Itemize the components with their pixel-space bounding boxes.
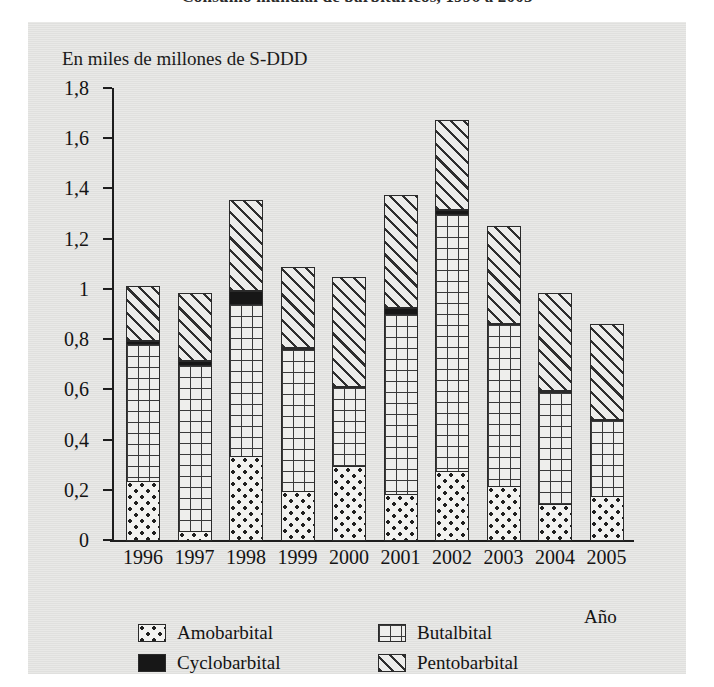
bar-segment-amobarbital bbox=[126, 481, 160, 541]
bar-segment-butalbital bbox=[590, 420, 624, 498]
y-axis-tick-label: 0,2 bbox=[64, 478, 89, 501]
y-axis-tick: 1,6 bbox=[103, 137, 112, 139]
bar-segment-butalbital bbox=[384, 314, 418, 495]
legend-item-butalbital: Butalbital bbox=[378, 622, 608, 644]
bar-segment-butalbital bbox=[126, 344, 160, 482]
legend-swatch-butalbital bbox=[378, 624, 406, 642]
bar-segment-pentobarbital bbox=[435, 120, 469, 210]
legend-label-pentobarbital: Pentobarbital bbox=[417, 652, 518, 674]
legend-label-amobarbital: Amobarbital bbox=[177, 622, 273, 644]
y-axis-tick-label: 0 bbox=[79, 529, 89, 552]
figure-page: Consumo mundial de barbitúricos, 1996 a … bbox=[0, 0, 714, 687]
bar-1996 bbox=[126, 286, 160, 540]
bar-segment-pentobarbital bbox=[229, 200, 263, 290]
bar-segment-amobarbital bbox=[538, 504, 572, 542]
bar-1997 bbox=[178, 293, 212, 540]
y-axis-tick: 0 bbox=[103, 539, 112, 541]
bar-segment-pentobarbital bbox=[126, 286, 160, 341]
y-axis-tick: 0,2 bbox=[103, 489, 112, 491]
y-axis-tick: 1,2 bbox=[103, 238, 112, 240]
bar-segment-amobarbital bbox=[281, 491, 315, 541]
y-axis-tick: 0,8 bbox=[103, 338, 112, 340]
legend-label-cyclobarbital: Cyclobarbital bbox=[177, 652, 280, 674]
legend-item-cyclobarbital: Cyclobarbital bbox=[138, 652, 368, 674]
bar-segment-butalbital bbox=[281, 349, 315, 492]
legend-swatch-amobarbital bbox=[138, 624, 166, 642]
y-axis-tick: 1,4 bbox=[103, 187, 112, 189]
x-axis-tick-label: 2005 bbox=[577, 546, 637, 569]
chart-title: Consumo mundial de barbitúricos, 1996 a … bbox=[0, 0, 714, 7]
bar-segment-amobarbital bbox=[332, 466, 366, 541]
y-axis-tick-label: 1,6 bbox=[64, 127, 89, 150]
bar-segment-pentobarbital bbox=[590, 324, 624, 419]
bar-segment-amobarbital bbox=[435, 471, 469, 541]
bar-2005 bbox=[590, 324, 624, 540]
bar-segment-amobarbital bbox=[487, 486, 521, 541]
y-axis-line bbox=[112, 88, 114, 540]
y-axis-tick-label: 0,4 bbox=[64, 428, 89, 451]
y-axis-tick-label: 1,2 bbox=[64, 227, 89, 250]
y-axis-tick-label: 1,4 bbox=[64, 177, 89, 200]
bar-2003 bbox=[487, 226, 521, 540]
y-axis-tick: 0,6 bbox=[103, 388, 112, 390]
y-axis-tick-label: 0,6 bbox=[64, 378, 89, 401]
bar-segment-pentobarbital bbox=[384, 195, 418, 308]
bar-segment-butalbital bbox=[178, 365, 212, 533]
bar-segment-butalbital bbox=[487, 324, 521, 487]
y-axis-tick: 0,4 bbox=[103, 439, 112, 441]
y-axis-tick-label: 1 bbox=[79, 277, 89, 300]
bar-1999 bbox=[281, 267, 315, 540]
bar-segment-amobarbital bbox=[178, 531, 212, 541]
legend-label-butalbital: Butalbital bbox=[417, 622, 492, 644]
y-axis-tick: 1,8 bbox=[103, 87, 112, 89]
bar-2000 bbox=[332, 277, 366, 540]
y-axis-tick-label: 1,8 bbox=[64, 77, 89, 100]
bar-segment-pentobarbital bbox=[281, 267, 315, 347]
bar-segment-butalbital bbox=[538, 392, 572, 505]
bar-segment-pentobarbital bbox=[538, 293, 572, 391]
bar-1998 bbox=[229, 200, 263, 540]
bar-2001 bbox=[384, 195, 418, 540]
bar-segment-butalbital bbox=[229, 304, 263, 457]
chart-legend: AmobarbitalButalbitalCyclobarbitalPentob… bbox=[138, 622, 608, 674]
y-axis-tick-label: 0,8 bbox=[64, 328, 89, 351]
bar-segment-pentobarbital bbox=[178, 293, 212, 361]
bar-2004 bbox=[538, 293, 572, 540]
legend-swatch-cyclobarbital bbox=[138, 654, 166, 672]
y-axis-unit-label: En miles de millones de S-DDD bbox=[62, 48, 307, 70]
chart-title-strip: Consumo mundial de barbitúricos, 1996 a … bbox=[0, 0, 714, 18]
bar-segment-amobarbital bbox=[229, 456, 263, 541]
bar-segment-butalbital bbox=[332, 387, 366, 467]
bar-segment-butalbital bbox=[435, 214, 469, 473]
bar-segment-amobarbital bbox=[590, 496, 624, 541]
legend-item-amobarbital: Amobarbital bbox=[138, 622, 368, 644]
bar-2002 bbox=[435, 120, 469, 540]
legend-swatch-pentobarbital bbox=[378, 654, 406, 672]
legend-item-pentobarbital: Pentobarbital bbox=[378, 652, 608, 674]
plot-area: 00,20,40,60,811,21,41,61,8 1996199719981… bbox=[112, 88, 632, 540]
bar-segment-amobarbital bbox=[384, 494, 418, 542]
bar-segment-pentobarbital bbox=[487, 226, 521, 324]
y-axis-tick: 1 bbox=[103, 288, 112, 290]
bar-segment-pentobarbital bbox=[332, 277, 366, 387]
chart-panel: En miles de millones de S-DDD 00,20,40,6… bbox=[28, 22, 686, 674]
